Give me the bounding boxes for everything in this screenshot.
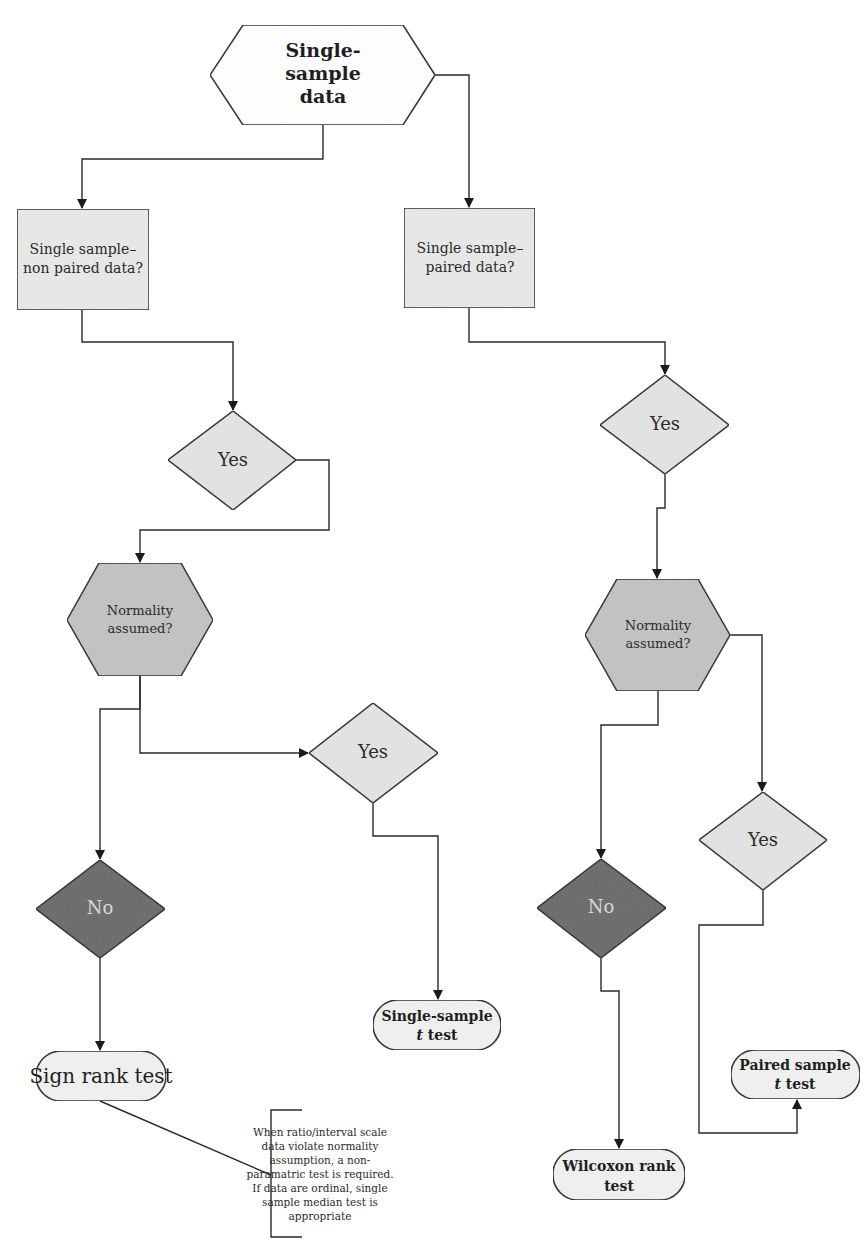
wilcoxon-line-1: Wilcoxon rank bbox=[561, 1158, 675, 1174]
left-yes-2-label: Yes bbox=[357, 741, 388, 762]
left-no-label: No bbox=[87, 897, 114, 918]
wilcoxon-rank-test-node: Wilcoxon rank test bbox=[553, 1149, 685, 1200]
non-paired-question-line-2: non paired data? bbox=[23, 260, 143, 276]
edge-left-normality-to-yes bbox=[140, 676, 308, 753]
right-yes-2-label: Yes bbox=[747, 829, 778, 850]
left-yes-1-label: Yes bbox=[217, 449, 248, 470]
start-node-line-1: Single- bbox=[285, 39, 360, 61]
start-node-line-2: sample bbox=[285, 62, 361, 84]
right-yes-diamond-1: Yes bbox=[600, 375, 729, 474]
left-yes-diamond-1: Yes bbox=[168, 411, 296, 510]
single-sample-t-test-node: Single-sample t test bbox=[373, 1000, 501, 1050]
edge-left-question-to-yes bbox=[82, 310, 233, 410]
edge-right-yes-to-normality bbox=[657, 474, 665, 578]
flowchart-canvas: Single- sample data Single sample– non p… bbox=[0, 0, 868, 1241]
right-no-diamond: No bbox=[537, 859, 666, 958]
paired-question-line-2: paired data? bbox=[426, 259, 515, 275]
paired-t-rest: test bbox=[781, 1076, 816, 1092]
edge-start-to-left-question bbox=[82, 125, 323, 208]
edge-right-normality-to-yes bbox=[730, 635, 762, 791]
edge-left-yes-to-single-t bbox=[373, 803, 438, 999]
annotation-line-7: appropriate bbox=[289, 1210, 352, 1222]
left-normality-line-2: assumed? bbox=[108, 621, 173, 636]
annotation-line-1: When ratio/interval scale bbox=[253, 1126, 387, 1138]
right-normality-line-2: assumed? bbox=[626, 636, 691, 651]
annotation-line-5: If data are ordinal, single bbox=[252, 1182, 387, 1194]
single-t-rest: test bbox=[423, 1027, 458, 1043]
edge-left-normality-to-no bbox=[100, 676, 140, 859]
paired-question-line-1: Single sample– bbox=[417, 240, 524, 256]
single-t-line-1: Single-sample bbox=[381, 1008, 492, 1024]
start-node-line-3: data bbox=[300, 85, 347, 107]
single-t-line-2: t test bbox=[416, 1027, 458, 1043]
right-normality-node: Normality assumed? bbox=[585, 579, 730, 691]
sign-rank-test-node: Sign rank test bbox=[29, 1051, 172, 1101]
left-yes-diamond-2: Yes bbox=[309, 703, 438, 803]
right-yes-1-label: Yes bbox=[649, 413, 680, 434]
annotation-line-6: sample median test is bbox=[262, 1196, 378, 1208]
start-node: Single- sample data bbox=[210, 25, 435, 125]
annotation-leader-line bbox=[100, 1101, 271, 1175]
paired-sample-t-test-node: Paired sample t test bbox=[731, 1050, 860, 1099]
right-no-label: No bbox=[588, 896, 615, 917]
paired-question-node: Single sample– paired data? bbox=[404, 208, 535, 308]
edge-right-question-to-yes bbox=[469, 308, 665, 374]
left-no-diamond: No bbox=[36, 860, 165, 958]
paired-t-line-1: Paired sample bbox=[739, 1057, 850, 1073]
edge-right-normality-to-no bbox=[601, 691, 658, 858]
wilcoxon-line-2: test bbox=[604, 1178, 634, 1194]
annotation-line-2: data violate normality bbox=[262, 1140, 379, 1152]
paired-t-line-2: t test bbox=[774, 1076, 816, 1092]
right-yes-diamond-2: Yes bbox=[699, 792, 827, 890]
non-paired-question-line-1: Single sample– bbox=[30, 241, 137, 257]
annotation-note: When ratio/interval scale data violate n… bbox=[246, 1110, 393, 1237]
edge-right-no-to-wilcoxon bbox=[601, 958, 619, 1148]
annotation-line-3: assumption, a non- bbox=[270, 1154, 371, 1166]
edge-start-to-right-question bbox=[435, 75, 469, 207]
sign-rank-label: Sign rank test bbox=[29, 1064, 172, 1088]
left-normality-line-1: Normality bbox=[107, 603, 174, 618]
right-normality-line-1: Normality bbox=[625, 618, 692, 633]
annotation-line-4: paramatric test is required. bbox=[246, 1168, 393, 1180]
non-paired-question-node: Single sample– non paired data? bbox=[17, 209, 149, 310]
left-normality-node: Normality assumed? bbox=[67, 563, 213, 676]
